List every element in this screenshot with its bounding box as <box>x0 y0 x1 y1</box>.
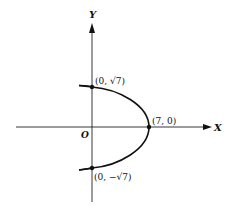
x-axis-arrow-icon <box>203 124 212 130</box>
parabola-diagram: X Y O (0, √7) (7, 0) (0, −√7) <box>0 0 227 208</box>
label-top-intercept: (0, √7) <box>95 76 125 86</box>
y-axis-arrow-icon <box>89 23 95 33</box>
label-vertex: (7, 0) <box>152 116 176 126</box>
x-axis-label: X <box>213 122 223 133</box>
label-bottom-intercept: (0, −√7) <box>94 172 131 182</box>
origin-label: O <box>81 130 89 140</box>
point-bottom-intercept <box>90 166 94 170</box>
parabola-curve <box>79 86 149 171</box>
x-axis <box>16 124 212 130</box>
point-vertex <box>147 125 151 129</box>
y-axis-label: Y <box>89 9 97 20</box>
point-top-intercept <box>90 85 94 89</box>
